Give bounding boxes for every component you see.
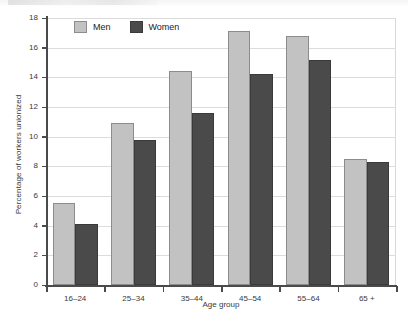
gridline [46, 107, 396, 108]
bar-men-1 [111, 123, 134, 285]
x-tick [221, 286, 223, 292]
y-tick-label: 18 [0, 13, 38, 22]
bar-women-2 [192, 113, 215, 285]
bar-chart: 024681012141618 16–2425–3435–4445–5455–6… [0, 0, 408, 322]
gridline [46, 137, 396, 138]
bar-women-4 [309, 60, 332, 285]
legend-item-women: Women [130, 21, 180, 33]
x-axis-title: Age group [46, 300, 396, 309]
legend-swatch-women [130, 21, 143, 33]
legend: Men Women [74, 21, 179, 33]
bar-men-3 [228, 31, 251, 285]
legend-swatch-men [74, 21, 87, 33]
bar-men-2 [169, 71, 192, 285]
scan-artifact-smudge [8, 0, 158, 5]
bar-women-0 [75, 224, 98, 285]
x-axis-line [45, 285, 397, 287]
legend-label-women: Women [149, 22, 180, 32]
bar-men-4 [286, 36, 309, 285]
legend-label-men: Men [93, 22, 111, 32]
bar-women-3 [250, 74, 273, 285]
bar-men-5 [344, 159, 367, 285]
x-tick [279, 286, 281, 292]
x-tick [338, 286, 340, 292]
x-tick [163, 286, 165, 292]
legend-item-men: Men [74, 21, 111, 33]
gridline [46, 18, 396, 19]
y-tick-label: 0 [0, 280, 38, 289]
bar-women-5 [367, 162, 390, 285]
plot-frame-right [395, 18, 396, 286]
y-axis-title: Percentage of workers unionized [14, 45, 23, 265]
x-tick [396, 286, 398, 292]
x-tick [104, 286, 106, 292]
gridline [46, 77, 396, 78]
y-axis-line [46, 16, 48, 287]
bar-men-0 [53, 203, 76, 285]
gridline [46, 48, 396, 49]
bar-women-1 [134, 140, 157, 285]
